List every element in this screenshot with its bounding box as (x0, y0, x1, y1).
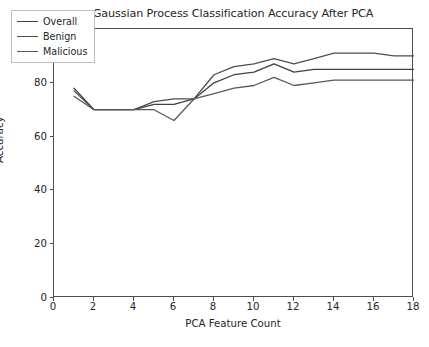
y-axis-label: Accuracy (0, 116, 5, 163)
legend-line-swatch (17, 21, 38, 22)
plot-area (53, 28, 413, 297)
x-tick-label: 10 (238, 301, 268, 312)
x-tick-label: 6 (158, 301, 188, 312)
x-tick-label: 4 (118, 301, 148, 312)
y-tick-label: 60 (13, 130, 47, 141)
legend-label: Benign (43, 31, 76, 42)
legend-item: Malicious (17, 45, 87, 58)
x-tick-label: 12 (278, 301, 308, 312)
legend-line-swatch (17, 36, 38, 37)
data-line (74, 77, 414, 120)
chart-title: Gaussian Process Classification Accuracy… (53, 7, 413, 20)
x-axis-label: PCA Feature Count (53, 318, 413, 329)
x-tick-label: 0 (38, 301, 68, 312)
y-tick-label: 40 (13, 184, 47, 195)
y-tick-label: 20 (13, 238, 47, 249)
chart-legend: OverallBenignMalicious (11, 10, 95, 63)
data-lines (54, 29, 414, 298)
chart-figure: Gaussian Process Classification Accuracy… (0, 0, 429, 347)
x-tick-label: 18 (398, 301, 428, 312)
legend-item: Benign (17, 30, 87, 43)
data-line (74, 53, 414, 109)
legend-item: Overall (17, 15, 87, 28)
x-tick-label: 16 (358, 301, 388, 312)
x-tick-label: 2 (78, 301, 108, 312)
legend-line-swatch (17, 51, 38, 52)
legend-label: Malicious (43, 46, 87, 57)
legend-label: Overall (43, 16, 77, 27)
x-tick-label: 8 (198, 301, 228, 312)
y-tick-label: 80 (13, 76, 47, 87)
x-tick-label: 14 (318, 301, 348, 312)
